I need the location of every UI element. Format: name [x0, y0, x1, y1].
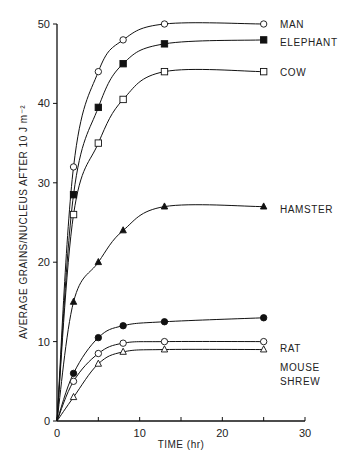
series-label: COW [280, 67, 306, 78]
circle-marker [120, 340, 126, 346]
x-tick-label: 30 [299, 427, 311, 439]
series-label: SHREW [280, 376, 320, 387]
series-rat [57, 315, 267, 421]
circle-marker [161, 319, 167, 325]
circle-marker [70, 164, 76, 170]
square-marker [120, 96, 126, 102]
circle-marker [260, 21, 266, 27]
triangle-marker [260, 346, 266, 352]
series-label: HAMSTER [280, 204, 333, 215]
series-line [57, 69, 264, 421]
square-marker [260, 68, 266, 74]
square-marker [161, 68, 167, 74]
square-marker [161, 41, 167, 47]
series-line [57, 349, 264, 421]
y-tick-label: 20 [38, 256, 50, 268]
square-marker [70, 211, 76, 217]
circle-marker [70, 370, 76, 376]
triangle-marker [260, 203, 266, 209]
triangle-marker [120, 227, 126, 233]
triangle-marker [70, 298, 76, 304]
series-line [57, 318, 264, 421]
series-cow [57, 68, 267, 421]
series-label: RAT [280, 343, 301, 354]
y-tick-label: 50 [38, 18, 50, 30]
circle-marker [260, 338, 266, 344]
series-hamster [57, 203, 267, 421]
series-label: MOUSE [280, 362, 320, 373]
y-tick-label: 40 [38, 97, 50, 109]
x-axis-label: TIME (hr) [158, 439, 205, 450]
square-marker [120, 61, 126, 67]
square-marker [260, 37, 266, 43]
y-tick-label: 30 [38, 177, 50, 189]
x-tick-label: 0 [54, 427, 60, 439]
circle-marker [120, 37, 126, 43]
y-axis-label: AVERAGE GRAINS/NUCLEUS AFTER 10 J m⁻² [18, 105, 29, 339]
line-chart: 010203001020304050 MANELEPHANTCOWHAMSTER… [0, 0, 354, 466]
series-man [57, 21, 267, 421]
series-label: MAN [280, 19, 304, 30]
square-marker [70, 192, 76, 198]
circle-marker [95, 68, 101, 74]
triangle-marker [95, 360, 101, 366]
x-tick-label: 10 [134, 427, 146, 439]
series-line [57, 23, 264, 421]
circle-marker [95, 350, 101, 356]
circle-marker [260, 315, 266, 321]
circle-marker [120, 323, 126, 329]
circle-marker [95, 334, 101, 340]
x-tick-label: 20 [216, 427, 228, 439]
circle-marker [161, 21, 167, 27]
series-line [57, 205, 264, 421]
y-tick-label: 0 [44, 415, 50, 427]
circle-marker [70, 378, 76, 384]
circle-marker [161, 338, 167, 344]
series-shrew [57, 346, 267, 421]
y-tick-label: 10 [38, 336, 50, 348]
series-labels: MANELEPHANTCOWHAMSTERRATMOUSESHREW [280, 19, 338, 387]
series-line [57, 341, 264, 421]
square-marker [95, 140, 101, 146]
series-label: ELEPHANT [280, 37, 338, 48]
axes: 010203001020304050 [38, 18, 311, 439]
square-marker [95, 104, 101, 110]
series-group [57, 21, 267, 421]
triangle-marker [161, 346, 167, 352]
